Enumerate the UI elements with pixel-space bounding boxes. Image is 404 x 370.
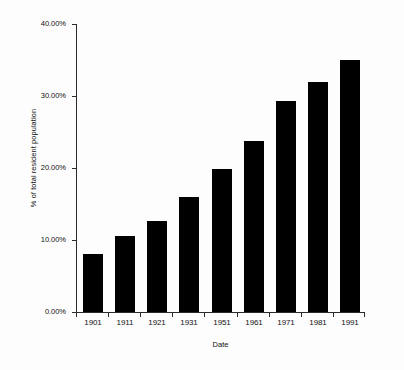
y-axis-tick-inner xyxy=(73,96,77,97)
x-axis-tick xyxy=(172,313,173,317)
y-axis-tick: 10.00% xyxy=(72,240,77,241)
x-axis-tick xyxy=(301,313,302,317)
y-axis-tick-label: 10.00% xyxy=(41,235,66,244)
y-axis-tick-label: 0.00% xyxy=(45,307,66,316)
x-axis-tick xyxy=(204,313,205,317)
plot-area: 0.00%10.00%20.00%30.00%40.00% 1901191119… xyxy=(76,24,365,313)
y-axis-tick-inner xyxy=(73,168,77,169)
x-axis-tick xyxy=(76,313,77,317)
x-axis-tick xyxy=(333,313,334,317)
bar xyxy=(308,82,328,312)
x-axis-tick xyxy=(364,313,365,317)
bar-chart: % of total resident population 0.00%10.0… xyxy=(0,0,404,370)
bar xyxy=(83,254,103,312)
x-axis-tick xyxy=(237,313,238,317)
x-axis-title: Date xyxy=(76,340,365,349)
y-axis-tick-inner xyxy=(73,24,77,25)
bar xyxy=(244,141,264,312)
bar xyxy=(276,101,296,312)
x-axis-tick-label: 1991 xyxy=(330,318,370,327)
x-axis-line xyxy=(76,312,365,313)
y-axis-tick-label: 40.00% xyxy=(41,19,66,28)
y-axis-title: % of total resident population xyxy=(27,8,41,308)
y-axis-tick: 20.00% xyxy=(72,168,77,169)
x-axis-tick xyxy=(269,313,270,317)
y-axis-tick-inner xyxy=(73,240,77,241)
bar xyxy=(115,236,135,312)
x-axis-tick xyxy=(108,313,109,317)
y-axis-tick: 40.00% xyxy=(72,24,77,25)
x-axis-tick xyxy=(140,313,141,317)
y-axis-tick: 30.00% xyxy=(72,96,77,97)
bar xyxy=(147,221,167,312)
bar xyxy=(340,60,360,312)
y-axis-tick-label: 20.00% xyxy=(41,163,66,172)
bar xyxy=(212,169,232,312)
y-axis-tick-label: 30.00% xyxy=(41,91,66,100)
bar xyxy=(179,197,199,312)
